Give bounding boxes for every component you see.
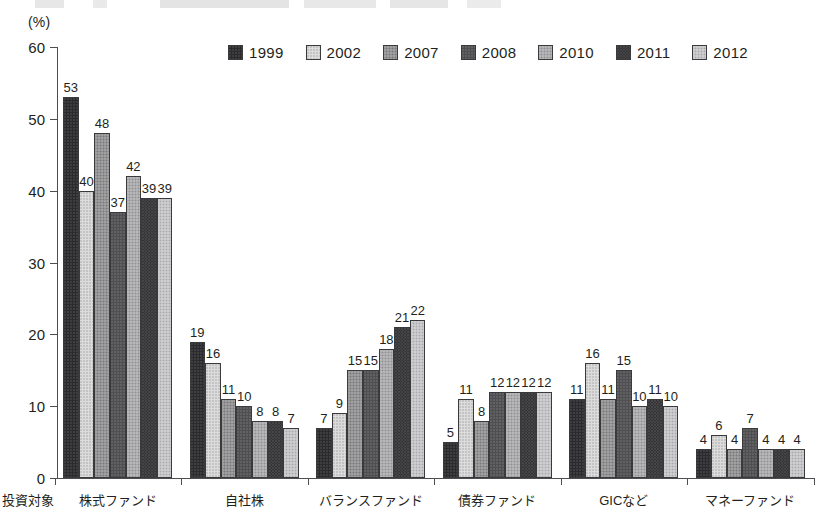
bar-slot: 42 bbox=[126, 47, 142, 478]
bar-2008-4[interactable]: 15 bbox=[616, 370, 632, 478]
bar-value-label: 8 bbox=[478, 405, 485, 418]
y-tick-30 bbox=[50, 263, 57, 264]
bar-2008-2[interactable]: 15 bbox=[363, 370, 379, 478]
bar-value-label: 7 bbox=[288, 412, 295, 425]
bar-2007-1[interactable]: 11 bbox=[221, 399, 237, 478]
bar-value-label: 15 bbox=[364, 354, 378, 367]
bar-1999-3[interactable]: 5 bbox=[443, 442, 459, 478]
bar-value-label: 8 bbox=[256, 405, 263, 418]
bar-2002-4[interactable]: 16 bbox=[585, 363, 601, 478]
bar-2007-0[interactable]: 48 bbox=[94, 133, 110, 478]
category-label-5: マネーファンド bbox=[705, 490, 795, 509]
category-labels: 株式ファンド自社株バランスファンド債券ファンドGICなどマネーファンド bbox=[0, 490, 833, 514]
bar-value-label: 8 bbox=[272, 405, 279, 418]
bar-2010-5[interactable]: 4 bbox=[758, 449, 774, 478]
bar-value-label: 10 bbox=[663, 390, 677, 403]
bar-slot: 53 bbox=[63, 47, 79, 478]
bar-slot: 12 bbox=[505, 47, 521, 478]
bar-2008-3[interactable]: 12 bbox=[489, 392, 505, 478]
bar-2012-4[interactable]: 10 bbox=[663, 406, 679, 478]
bar-2012-5[interactable]: 4 bbox=[789, 449, 805, 478]
bar-1999-4[interactable]: 11 bbox=[569, 399, 585, 478]
bar-slot: 4 bbox=[727, 47, 743, 478]
bar-slot: 15 bbox=[363, 47, 379, 478]
bar-2012-1[interactable]: 7 bbox=[283, 428, 299, 478]
bar-value-label: 11 bbox=[648, 383, 662, 396]
y-tick-label-50: 50 bbox=[5, 110, 45, 127]
bar-value-label: 53 bbox=[64, 81, 78, 94]
category-label-2: バランスファンド bbox=[319, 490, 423, 509]
bar-2012-0[interactable]: 39 bbox=[157, 198, 173, 478]
bar-value-label: 11 bbox=[222, 383, 236, 396]
bar-2011-0[interactable]: 39 bbox=[141, 198, 157, 478]
bar-2012-2[interactable]: 22 bbox=[410, 320, 426, 478]
bar-value-label: 18 bbox=[379, 333, 393, 346]
bar-value-label: 7 bbox=[747, 412, 754, 425]
bar-slot: 22 bbox=[410, 47, 426, 478]
bar-value-label: 40 bbox=[79, 175, 93, 188]
x-tick bbox=[561, 478, 562, 485]
bar-2010-4[interactable]: 10 bbox=[632, 406, 648, 478]
bar-2002-0[interactable]: 40 bbox=[79, 191, 95, 478]
bar-2010-0[interactable]: 42 bbox=[126, 176, 142, 478]
bar-1999-5[interactable]: 4 bbox=[696, 449, 712, 478]
bar-2011-4[interactable]: 11 bbox=[647, 399, 663, 478]
bar-2008-5[interactable]: 7 bbox=[742, 428, 758, 478]
x-tick bbox=[687, 478, 688, 485]
bar-2007-2[interactable]: 15 bbox=[347, 370, 363, 478]
bar-2011-1[interactable]: 8 bbox=[268, 421, 284, 478]
bar-2011-3[interactable]: 12 bbox=[521, 392, 537, 478]
bar-value-label: 12 bbox=[537, 376, 551, 389]
bar-2010-2[interactable]: 18 bbox=[379, 349, 395, 478]
bar-group-5: 4647444 bbox=[696, 47, 806, 478]
bar-2002-1[interactable]: 16 bbox=[205, 363, 221, 478]
bar-slot: 7 bbox=[742, 47, 758, 478]
bar-1999-1[interactable]: 19 bbox=[190, 342, 206, 478]
bar-group-0: 53404837423939 bbox=[63, 47, 173, 478]
bar-value-label: 37 bbox=[111, 196, 125, 209]
bar-2002-3[interactable]: 11 bbox=[458, 399, 474, 478]
bar-group-1: 19161110887 bbox=[190, 47, 300, 478]
category-label-0: 株式ファンド bbox=[79, 490, 157, 509]
y-tick-40 bbox=[50, 191, 57, 192]
bar-slot: 11 bbox=[647, 47, 663, 478]
bar-2012-3[interactable]: 12 bbox=[536, 392, 552, 478]
bar-value-label: 11 bbox=[570, 383, 584, 396]
bar-slot: 10 bbox=[236, 47, 252, 478]
x-tick bbox=[814, 478, 815, 485]
bar-1999-2[interactable]: 7 bbox=[316, 428, 332, 478]
bar-2008-1[interactable]: 10 bbox=[236, 406, 252, 478]
bar-slot: 19 bbox=[190, 47, 206, 478]
bar-slot: 9 bbox=[332, 47, 348, 478]
bar-slot: 8 bbox=[252, 47, 268, 478]
bar-value-label: 4 bbox=[700, 433, 707, 446]
bar-2002-5[interactable]: 6 bbox=[711, 435, 727, 478]
bar-value-label: 16 bbox=[585, 347, 599, 360]
bar-1999-0[interactable]: 53 bbox=[63, 97, 79, 478]
bar-value-label: 7 bbox=[320, 412, 327, 425]
bar-value-label: 12 bbox=[490, 376, 504, 389]
bar-2011-2[interactable]: 21 bbox=[394, 327, 410, 478]
bar-value-label: 12 bbox=[506, 376, 520, 389]
bar-2002-2[interactable]: 9 bbox=[332, 413, 348, 478]
bar-2011-5[interactable]: 4 bbox=[774, 449, 790, 478]
bar-value-label: 4 bbox=[731, 433, 738, 446]
bar-value-label: 4 bbox=[794, 433, 801, 446]
bar-2010-3[interactable]: 12 bbox=[505, 392, 521, 478]
bar-value-label: 15 bbox=[348, 354, 362, 367]
bar-2007-4[interactable]: 11 bbox=[600, 399, 616, 478]
chart-canvas: (%) 1999200220072008201020112012 0102030… bbox=[0, 0, 833, 517]
bar-value-label: 42 bbox=[126, 160, 140, 173]
bar-2008-0[interactable]: 37 bbox=[110, 212, 126, 478]
bar-slot: 16 bbox=[585, 47, 601, 478]
y-tick-60 bbox=[50, 47, 57, 48]
bar-group-2: 791515182122 bbox=[316, 47, 426, 478]
bar-value-label: 39 bbox=[142, 182, 156, 195]
bar-slot: 21 bbox=[394, 47, 410, 478]
bar-2007-3[interactable]: 8 bbox=[474, 421, 490, 478]
bar-group-3: 511812121212 bbox=[443, 47, 553, 478]
bar-2010-1[interactable]: 8 bbox=[252, 421, 268, 478]
bar-2007-5[interactable]: 4 bbox=[727, 449, 743, 478]
bar-value-label: 48 bbox=[95, 117, 109, 130]
y-tick-20 bbox=[50, 334, 57, 335]
